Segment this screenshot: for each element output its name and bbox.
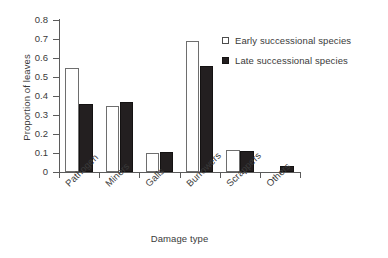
x-tick-mark (139, 173, 140, 178)
x-tick-mark (59, 173, 60, 178)
x-axis-title: Damage type (59, 233, 300, 244)
y-tick-label: 0.5 (8, 71, 48, 82)
x-tick-mark (180, 173, 181, 178)
y-tick-label: 0.3 (8, 109, 48, 120)
y-tick-label: 0.4 (8, 90, 48, 101)
x-tick-mark (300, 173, 301, 178)
x-tick-mark (220, 173, 221, 178)
x-tick-mark (260, 173, 261, 178)
bar-chart: Proportion of leaves 00.10.20.30.40.50.6… (0, 0, 388, 258)
legend-item-late[interactable]: Late successional species (222, 53, 351, 68)
y-tick-label: 0.7 (8, 33, 48, 44)
bar-pathogen-early (65, 68, 79, 172)
y-tick-label: 0.2 (8, 128, 48, 139)
open-square-swatch-icon (222, 37, 229, 44)
legend-label-late: Late successional species (235, 55, 348, 66)
bar-burrowers-early (186, 41, 200, 172)
y-tick-label: 0.1 (8, 147, 48, 158)
y-tick-label: 0.6 (8, 52, 48, 63)
filled-square-swatch-icon (222, 57, 229, 64)
y-tick-label: 0 (8, 166, 48, 177)
legend-item-early[interactable]: Early successional species (222, 33, 351, 48)
x-tick-mark (99, 173, 100, 178)
legend-label-early: Early successional species (235, 35, 351, 46)
bar-miners-early (106, 106, 120, 172)
y-tick-label: 0.8 (8, 14, 48, 25)
chart-legend: Early successional species Late successi… (222, 33, 351, 73)
